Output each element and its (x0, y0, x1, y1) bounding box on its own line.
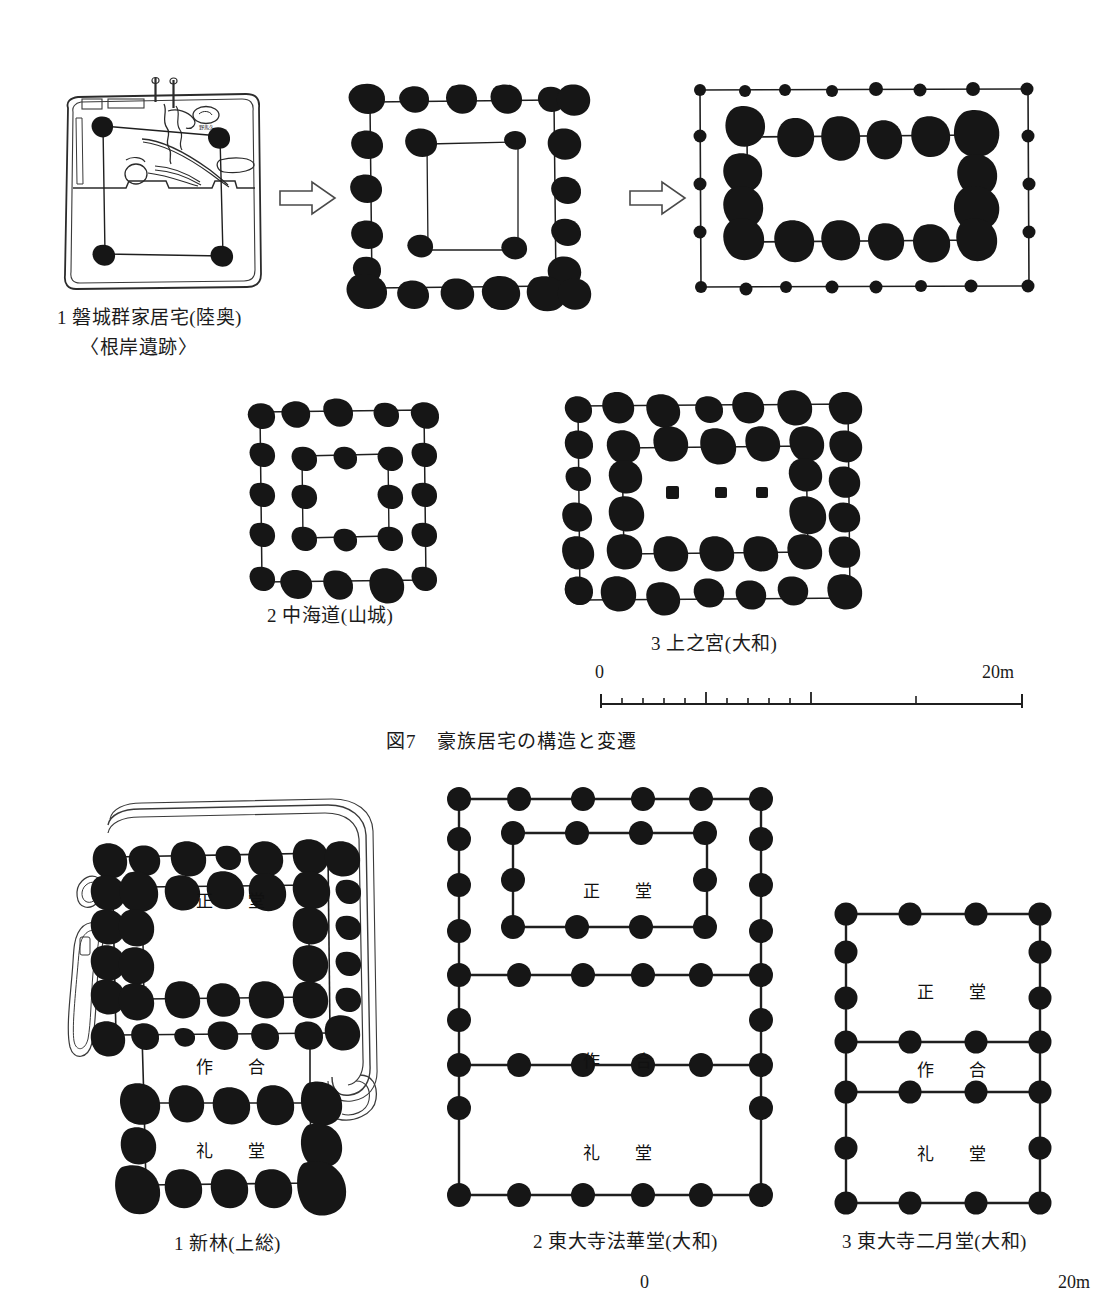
figure-caption: 図7 豪族居宅の構造と変遷 (386, 726, 637, 753)
room-label-hokkedo-2: 礼 堂 (583, 1139, 661, 1164)
diagram-kaminomiya (560, 390, 880, 630)
label-kaminomiya: 3 上之宮(大和) (651, 628, 777, 655)
room-label-nigatsudo-0: 正 堂 (917, 978, 995, 1003)
label-shinbayashi: 1 新林(上総) (174, 1228, 281, 1255)
room-label-hokkedo-1: 作 合 (583, 1047, 661, 1072)
diagram-transition-square (340, 72, 590, 312)
label-nigatsudo: 3 東大寺二月堂(大和) (842, 1226, 1027, 1253)
label-iwaki-line2: 〈根岸遺跡〉 (80, 332, 197, 359)
room-label-shinbayashi-2: 礼 堂 (196, 1137, 274, 1162)
room-label-shinbayashi-1: 作 合 (196, 1053, 274, 1078)
figure-page: 野馬久 1 磐城群家居宅(陸奥) 〈根岸遺跡〉 (0, 0, 1107, 1311)
scalebar-top-right-label: 20m (982, 662, 1014, 683)
scalebar-bottom-left-label: 0 (640, 1272, 649, 1293)
scalebar-bottom-right-label: 20m (1058, 1272, 1090, 1293)
room-label-shinbayashi-0: 正 堂 (196, 887, 274, 912)
label-hokkedo: 2 東大寺法華堂(大和) (533, 1226, 718, 1253)
scalebar-top-left-label: 0 (595, 662, 604, 683)
diagram-iwaki-excavation-plan: 野馬久 (60, 78, 270, 298)
diagram-nakakaido (248, 400, 448, 600)
diagram-transition-rectangle (690, 80, 1040, 300)
room-label-nigatsudo-1: 作 合 (917, 1056, 995, 1081)
room-label-nigatsudo-2: 礼 堂 (917, 1140, 995, 1165)
arrow-right-icon-1 (278, 178, 338, 218)
room-label-hokkedo-0: 正 堂 (583, 877, 661, 902)
label-nakakaido: 2 中海道(山城) (267, 600, 393, 627)
arrow-right-icon-2 (628, 178, 688, 218)
label-iwaki-line1: 1 磐城群家居宅(陸奥) (57, 302, 242, 329)
